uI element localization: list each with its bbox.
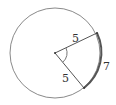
endpoint-upper	[96, 32, 98, 34]
circle-diagram: 5 5 7	[0, 0, 116, 105]
radius-label-lower: 5	[62, 72, 69, 85]
endpoint-lower	[83, 87, 85, 89]
center-point	[54, 52, 56, 54]
arc-label: 7	[103, 60, 110, 73]
radius-label-upper: 5	[72, 32, 79, 45]
angle-mark	[63, 48, 67, 62]
radius-lower	[55, 53, 84, 88]
